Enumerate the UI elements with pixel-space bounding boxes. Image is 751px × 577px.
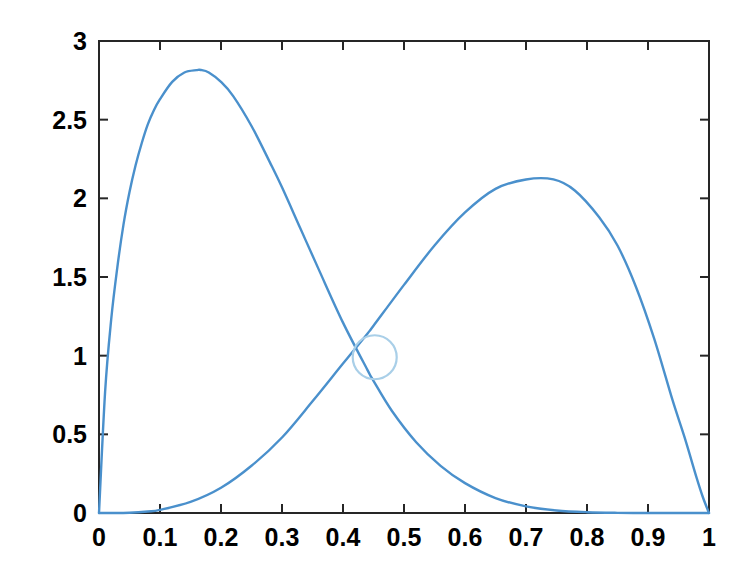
- x-tick-label-0.4: 0.4: [326, 525, 361, 550]
- x-tick-label-0.8: 0.8: [570, 525, 605, 550]
- y-axis-ticks: [99, 41, 709, 513]
- y-tick-label-1.5: 1.5: [52, 265, 87, 290]
- series-line-left-peaked-density: [99, 70, 709, 513]
- series-line-right-peaked-density: [99, 178, 709, 513]
- data-series-group: [99, 70, 709, 513]
- y-tick-label-2: 2: [73, 186, 87, 211]
- intersection-circle: [353, 335, 397, 379]
- y-tick-label-3: 3: [73, 29, 87, 54]
- x-tick-label-1: 1: [702, 525, 716, 550]
- x-tick-label-0.5: 0.5: [387, 525, 422, 550]
- x-tick-label-0.7: 0.7: [509, 525, 544, 550]
- x-axis-ticks: [99, 41, 709, 513]
- x-tick-label-0.6: 0.6: [448, 525, 483, 550]
- x-tick-label-0.3: 0.3: [265, 525, 300, 550]
- y-tick-label-2.5: 2.5: [52, 107, 87, 132]
- x-tick-label-0: 0: [92, 525, 106, 550]
- x-tick-label-0.9: 0.9: [631, 525, 666, 550]
- x-tick-label-0.2: 0.2: [204, 525, 239, 550]
- x-tick-label-0.1: 0.1: [143, 525, 178, 550]
- plot-canvas: [0, 0, 751, 577]
- plot-frame: [99, 41, 709, 513]
- y-tick-label-0.5: 0.5: [52, 422, 87, 447]
- y-tick-label-0: 0: [73, 501, 87, 526]
- figure-container: 00.10.20.30.40.50.60.70.80.91 00.511.522…: [0, 0, 751, 577]
- marker-group: [353, 335, 397, 379]
- y-tick-label-1: 1: [73, 343, 87, 368]
